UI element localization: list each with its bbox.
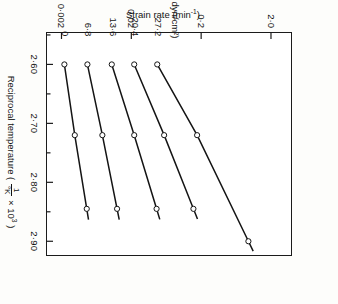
data-point-marker bbox=[191, 206, 196, 211]
x-axis-title-exponent: 3 bbox=[11, 219, 18, 223]
y-tick-label: 2·0 bbox=[265, 0, 276, 28]
x-tick-label: 2·60 bbox=[29, 54, 40, 74]
fraction-numerator: 1 bbox=[11, 184, 20, 197]
series-label: 0 bbox=[60, 31, 71, 36]
series-label: 27·2 bbox=[153, 17, 164, 36]
data-point-marker bbox=[114, 206, 119, 211]
series-label: 6·8 bbox=[83, 23, 94, 37]
data-point-marker bbox=[162, 133, 167, 138]
series-line bbox=[157, 64, 253, 251]
y-axis-title: Strain rate (min-1) bbox=[63, 8, 263, 20]
y-axis-title-main: Strain rate (min bbox=[126, 9, 191, 20]
x-axis-title: Reciprocal temperature ( 1 °K × 103 ) bbox=[3, 0, 20, 304]
data-point-marker bbox=[154, 206, 159, 211]
x-tick-label: 2·90 bbox=[29, 231, 40, 251]
x-tick-label: 2·70 bbox=[29, 113, 40, 133]
y-axis-title-paren-close: ) bbox=[197, 9, 200, 20]
plot-area bbox=[46, 32, 292, 256]
reciprocal-kelvin-fraction: 1 °K bbox=[3, 184, 20, 197]
data-point-marker bbox=[62, 62, 67, 67]
chart-figure: 2·602·702·802·90 2·00·20·020·002 06·813·… bbox=[0, 0, 338, 304]
data-point-marker bbox=[155, 62, 160, 67]
series-label: 20·4 bbox=[130, 17, 141, 36]
x-axis-title-paren-open: ( bbox=[6, 177, 17, 180]
x-axis-title-times: × 10 bbox=[6, 200, 17, 219]
series-line bbox=[87, 64, 119, 219]
series-line bbox=[64, 64, 88, 219]
data-point-marker bbox=[85, 62, 90, 67]
fraction-denominator: °K bbox=[3, 184, 11, 197]
data-point-marker bbox=[132, 62, 137, 67]
data-point-marker bbox=[109, 62, 114, 67]
series-line bbox=[134, 64, 197, 219]
data-point-marker bbox=[100, 133, 105, 138]
data-point-marker bbox=[195, 133, 200, 138]
series-line bbox=[112, 64, 160, 219]
data-point-marker bbox=[132, 133, 137, 138]
data-point-marker bbox=[84, 206, 89, 211]
x-axis-title-main: Reciprocal temperature bbox=[6, 76, 17, 175]
rotated-figure-wrapper: 2·602·702·802·90 2·00·20·020·002 06·813·… bbox=[0, 0, 338, 304]
data-point-marker bbox=[246, 239, 251, 244]
series-label: 13·6 bbox=[108, 17, 119, 36]
data-point-marker bbox=[72, 133, 77, 138]
x-tick-label: 2·80 bbox=[29, 172, 40, 192]
x-axis-title-paren-close: ) bbox=[6, 225, 17, 228]
